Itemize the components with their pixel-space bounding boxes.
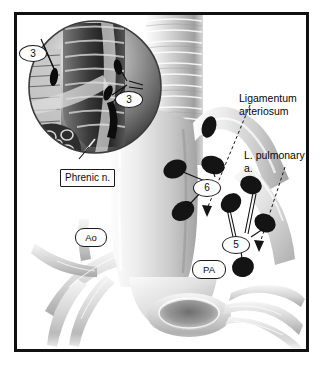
left-pulmonary-artery-label: L. pulmonary a. xyxy=(244,149,306,174)
phrenic-nerve-text: Phrenic n. xyxy=(65,173,110,183)
aorta-callout-text: Ao xyxy=(85,233,97,243)
station-5-callout[interactable]: 5 xyxy=(222,236,250,254)
station-6-callout-text: 6 xyxy=(204,183,210,193)
inset-callout-3-left[interactable]: 3 xyxy=(19,45,47,62)
pulmonary-artery-callout-text: PA xyxy=(203,265,215,275)
inset-callout-3-left-text: 3 xyxy=(30,49,36,59)
figure-root: 3 3 Phrenic n. Ao PA 6 5 Ligamentum arte… xyxy=(0,0,323,368)
figure-frame: 3 3 Phrenic n. Ao PA 6 5 Ligamentum arte… xyxy=(14,12,309,352)
station-6-callout[interactable]: 6 xyxy=(193,179,221,197)
station-5-callout-text: 5 xyxy=(233,240,239,250)
inset-callout-3-right[interactable]: 3 xyxy=(115,91,143,108)
ligamentum-arteriosum-label: Ligamentum arteriosum xyxy=(239,92,297,117)
phrenic-nerve-callout[interactable]: Phrenic n. xyxy=(60,169,115,187)
aorta-callout[interactable]: Ao xyxy=(75,228,107,247)
inset-callout-3-right-text: 3 xyxy=(126,95,132,105)
pulmonary-artery-callout[interactable]: PA xyxy=(192,260,226,279)
